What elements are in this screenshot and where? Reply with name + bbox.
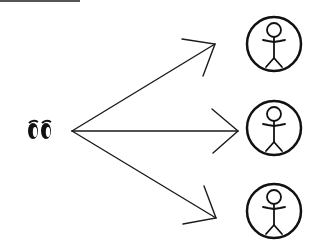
eyes-icon [28,121,51,139]
person-in-circle-icon [247,17,301,71]
diagram-canvas [0,0,325,249]
arrow-to-top-person [72,39,215,131]
person-in-circle-icon [247,101,301,155]
person-in-circle-icon [247,184,301,238]
arrow-to-bottom-person [72,131,216,224]
